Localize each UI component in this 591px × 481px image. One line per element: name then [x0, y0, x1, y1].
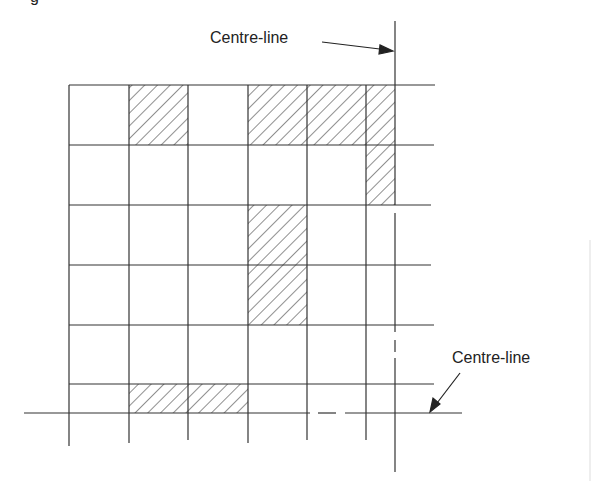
hatched-cells: [129, 85, 395, 413]
arrow-bottom: [430, 373, 460, 412]
arrow-top: [322, 42, 393, 54]
vertical-centre-line-label: Centre-line: [210, 29, 288, 47]
grid-diagram: [0, 0, 591, 481]
horizontal-centre-line-label: Centre-line: [452, 349, 530, 367]
